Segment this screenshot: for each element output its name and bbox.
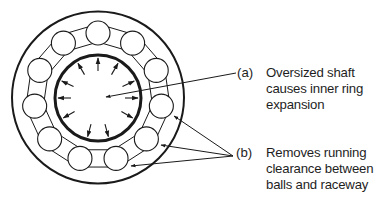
callout-tag-b: (b): [236, 145, 252, 161]
ball: [86, 21, 110, 45]
callout-b-line-3: balls and raceway: [266, 177, 373, 193]
ball: [134, 127, 158, 151]
ball: [23, 94, 47, 118]
callout-tag-a: (a): [237, 65, 253, 81]
ball: [68, 146, 92, 170]
ball: [28, 58, 52, 82]
ball: [144, 58, 168, 82]
ball: [149, 94, 173, 118]
callout-a-line-3: expansion: [266, 97, 363, 113]
leader-line-b2: [161, 145, 233, 156]
callout-a-line-1: Oversized shaft: [266, 65, 363, 81]
callout-a-line-2: causes inner ring: [266, 81, 363, 97]
leader-line-b1: [174, 116, 233, 156]
leader-line-b3: [131, 156, 233, 166]
ball: [104, 146, 128, 170]
callout-b-line-1: Removes running: [266, 145, 373, 161]
callout-b-line-2: clearance between: [266, 161, 373, 177]
callout-text-b: Removes running clearance between balls …: [266, 145, 373, 193]
callout-text-a: Oversized shaft causes inner ring expans…: [266, 65, 363, 113]
ball: [121, 31, 145, 55]
ball: [38, 127, 62, 151]
ball: [51, 31, 75, 55]
